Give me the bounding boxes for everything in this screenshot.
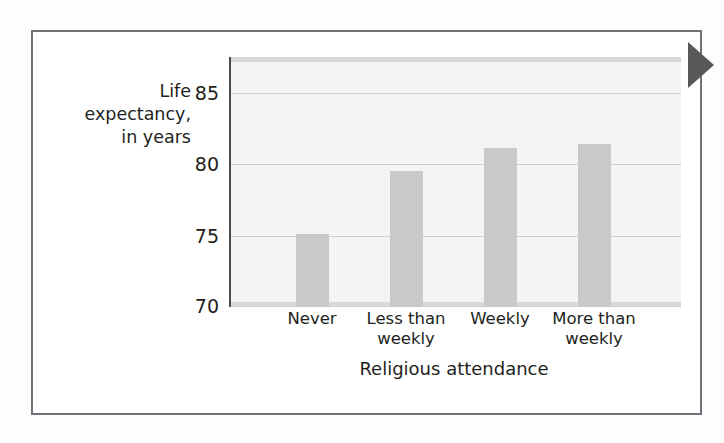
x-tick-label-more-than-weekly: More than weekly <box>536 309 652 349</box>
y-tick-label-75: 75 <box>195 225 219 247</box>
figure-frame: Life expectancy, in years 85 80 75 70 <box>31 30 702 415</box>
y-tick-label-70: 70 <box>195 295 219 317</box>
x-axis-title: Religious attendance <box>229 358 679 379</box>
plot-top-edge-band <box>231 57 681 62</box>
bar-weekly[interactable] <box>484 148 517 307</box>
gridline-80: 80 <box>231 164 681 165</box>
y-tick-label-85: 85 <box>195 82 219 104</box>
plot-area: 85 80 75 70 Never Less than weekly Weekl… <box>229 57 681 307</box>
y-axis-title: Life expectancy, in years <box>63 80 191 149</box>
bar-chart: Life expectancy, in years 85 80 75 70 <box>33 32 704 417</box>
bar-never[interactable] <box>296 234 329 307</box>
callout-arrow-icon <box>688 42 714 88</box>
gridline-85: 85 <box>231 93 681 94</box>
bar-less-than-weekly[interactable] <box>390 171 423 307</box>
y-tick-label-80: 80 <box>195 153 219 175</box>
bar-more-than-weekly[interactable] <box>578 144 611 307</box>
